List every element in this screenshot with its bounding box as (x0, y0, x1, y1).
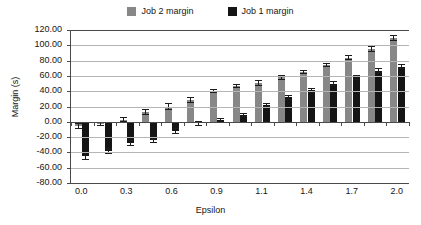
error-bar (345, 55, 352, 60)
error-bar (187, 97, 194, 103)
y-axis-tick-mark (67, 45, 71, 46)
y-axis-tick-label: 60.00 (0, 70, 62, 80)
y-axis-tick-label: -40.00 (0, 146, 62, 156)
bar-job-2-margin (255, 83, 262, 122)
x-axis-tick-mark (139, 122, 140, 126)
bar-job-2-margin (345, 58, 352, 122)
bar-job-1-margin (375, 71, 382, 122)
error-bar (300, 70, 307, 75)
error-bar (323, 63, 330, 68)
gridline (71, 107, 409, 108)
error-bar (240, 113, 247, 118)
x-axis-tick-mark (229, 122, 230, 126)
y-axis-tick-label: 40.00 (0, 85, 62, 95)
error-bar (233, 84, 240, 89)
error-bar (82, 152, 89, 160)
y-axis-tick-mark (67, 168, 71, 169)
legend-label-job-1-margin: Job 1 margin (242, 6, 294, 16)
y-axis-tick-label: 0.00 (0, 116, 62, 126)
error-bar (255, 80, 262, 86)
bar-job-1-margin (82, 122, 89, 156)
x-axis-line (71, 183, 409, 184)
gridline (71, 137, 409, 138)
y-axis-tick-mark (67, 61, 71, 62)
error-bar (390, 35, 397, 41)
error-bar (398, 64, 405, 69)
x-axis-tick-mark (319, 122, 320, 126)
legend-label-job-2-margin: Job 2 margin (141, 6, 193, 16)
x-axis-tick-label: 1.7 (332, 186, 372, 196)
chart-legend: Job 2 margin Job 1 margin (0, 3, 421, 19)
error-bar (142, 109, 149, 115)
gridline (71, 61, 409, 62)
y-axis-tick-mark (67, 137, 71, 138)
gridline (71, 152, 409, 153)
y-axis-tick-mark (67, 152, 71, 153)
error-bar (330, 81, 337, 86)
y-axis-tick-mark (67, 91, 71, 92)
x-axis-tick-mark (364, 122, 365, 126)
legend-swatch-job-1-margin (228, 7, 237, 16)
bar-job-2-margin (300, 72, 307, 122)
error-bar (172, 128, 179, 134)
y-axis-tick-label: -20.00 (0, 131, 62, 141)
x-axis-tick-mark (251, 122, 252, 126)
legend-item-job-2-margin: Job 2 margin (127, 6, 193, 16)
y-axis-tick-label: 120.00 (0, 24, 62, 34)
x-axis-tick-mark (409, 122, 410, 126)
x-axis-tick-mark (386, 122, 387, 126)
legend-swatch-job-2-margin (127, 7, 136, 16)
gridline (71, 76, 409, 77)
x-axis-tick-mark (341, 122, 342, 126)
error-bar (127, 140, 134, 146)
gridline (71, 168, 409, 169)
error-bar (375, 68, 382, 73)
x-axis-tick-label: 0.3 (106, 186, 146, 196)
y-axis-tick-label: 100.00 (0, 39, 62, 49)
error-bar (368, 46, 375, 52)
gridline (71, 91, 409, 92)
x-axis-tick-label: 0.0 (61, 186, 101, 196)
x-axis-tick-label: 0.6 (151, 186, 191, 196)
gridline (71, 45, 409, 46)
bar-job-2-margin (323, 65, 330, 122)
error-bar (75, 123, 82, 129)
y-axis-tick-label: 20.00 (0, 101, 62, 111)
bar-job-2-margin (278, 77, 285, 121)
y-axis-tick-label: -80.00 (0, 177, 62, 187)
x-axis-tick-label: 1.1 (242, 186, 282, 196)
x-axis-tick-label: 1.4 (287, 186, 327, 196)
y-axis-tick-mark (67, 107, 71, 108)
bar-job-2-margin (390, 38, 397, 122)
y-axis-tick-mark (67, 30, 71, 31)
x-axis-title: Epsilon (0, 205, 421, 215)
x-axis-tick-label: 2.0 (377, 186, 417, 196)
margin-vs-epsilon-bar-chart: Job 2 margin Job 1 margin Margin (s) Eps… (0, 0, 421, 225)
x-axis-tick-mark (206, 122, 207, 126)
error-bar (285, 95, 292, 100)
bar-job-1-margin (330, 84, 337, 122)
x-axis-tick-label: 0.9 (196, 186, 236, 196)
x-axis-tick-mark (161, 122, 162, 126)
gridline (71, 30, 409, 31)
x-axis-tick-mark (274, 122, 275, 126)
x-axis-tick-mark (296, 122, 297, 126)
legend-item-job-1-margin: Job 1 margin (228, 6, 294, 16)
x-axis-tick-mark (184, 122, 185, 126)
bar-job-1-margin (353, 77, 360, 121)
bar-job-1-margin (285, 97, 292, 121)
y-axis-tick-label: 80.00 (0, 55, 62, 65)
gridline (71, 122, 409, 123)
bar-job-2-margin (187, 100, 194, 121)
x-axis-tick-mark (116, 122, 117, 126)
y-axis-tick-label: -60.00 (0, 162, 62, 172)
x-axis-tick-mark (94, 122, 95, 126)
y-axis-tick-mark (67, 76, 71, 77)
x-axis-tick-mark (71, 122, 72, 126)
plot-area (70, 30, 408, 183)
